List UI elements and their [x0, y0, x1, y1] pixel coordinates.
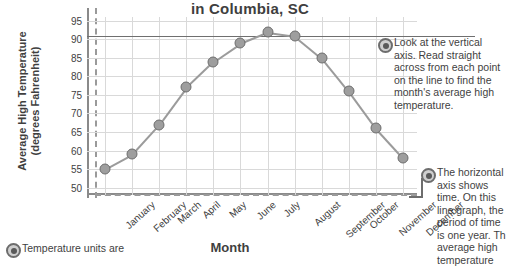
y-tick-label: 80 — [52, 71, 82, 82]
callout-bullet-units — [6, 243, 21, 258]
x-gridline — [213, 17, 214, 195]
y-axis-title-line2: (degrees Fahrenheit) — [29, 6, 42, 196]
y-gridline — [87, 132, 417, 133]
x-gridline — [268, 17, 269, 195]
x-gridline — [159, 17, 160, 195]
x-gridline — [295, 17, 296, 195]
x-tick-label: August — [312, 199, 343, 228]
x-tick-label: July — [281, 199, 302, 219]
y-tick-label: 70 — [52, 108, 82, 119]
x-tick-label: May — [227, 199, 248, 220]
chart-title: in Columbia, SC — [120, 0, 380, 17]
x-tick-label: April — [200, 199, 222, 221]
y-axis-title: Average High Temperature (degrees Fahren… — [16, 6, 42, 196]
y-gridline — [87, 188, 417, 189]
data-point[interactable] — [370, 123, 381, 134]
x-tick-label: June — [255, 199, 278, 222]
data-point[interactable] — [154, 119, 165, 130]
data-point[interactable] — [316, 52, 327, 63]
x-gridline — [322, 17, 323, 195]
callout-bullet-vertical — [378, 38, 393, 53]
data-point[interactable] — [208, 56, 219, 67]
y-axis-title-line1: Average High Temperature — [16, 6, 29, 196]
x-axis-title: Month — [140, 240, 320, 255]
y-gridline — [87, 113, 417, 114]
x-gridline — [349, 17, 350, 195]
data-point[interactable] — [100, 164, 111, 175]
y-gridline — [87, 21, 417, 22]
y-gridline — [87, 76, 417, 77]
data-point[interactable] — [289, 30, 300, 41]
x-gridline — [186, 17, 187, 195]
y-tick-label: 65 — [52, 126, 82, 137]
callout-bullet-horizontal — [421, 168, 436, 183]
x-gridline — [132, 17, 133, 195]
y-tick-label: 75 — [52, 89, 82, 100]
data-point[interactable] — [262, 26, 273, 37]
dashed-horizontal-guide — [95, 194, 417, 196]
data-point[interactable] — [235, 37, 246, 48]
y-gridline — [87, 58, 417, 59]
callout-vertical-axis: Look at the vertical axis. Read straight… — [394, 36, 504, 111]
callout-units-note: Temperature units are — [22, 242, 162, 255]
y-tick-label: 90 — [52, 34, 82, 45]
callout-leader-horizontal-vert — [421, 178, 423, 197]
data-point[interactable] — [398, 152, 409, 163]
x-gridline — [376, 17, 377, 195]
plot-area: 50556065707580859095JanuaryFebruaryMarch… — [87, 17, 417, 195]
y-gridline — [87, 95, 417, 96]
data-point[interactable] — [127, 149, 138, 160]
y-tick-label: 50 — [52, 182, 82, 193]
callout-horizontal-axis: The horizontal axis shows time. On this … — [437, 166, 507, 266]
data-point[interactable] — [343, 86, 354, 97]
y-tick-label: 85 — [52, 52, 82, 63]
y-tick-label: 55 — [52, 164, 82, 175]
data-point[interactable] — [181, 82, 192, 93]
y-gridline — [87, 169, 417, 170]
y-tick-label: 95 — [52, 15, 82, 26]
y-tick-label: 60 — [52, 145, 82, 156]
